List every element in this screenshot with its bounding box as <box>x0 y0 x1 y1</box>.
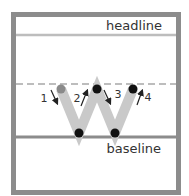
start-point-dot <box>57 85 66 94</box>
stroke-number-2: 2 <box>74 92 81 105</box>
stroke-number-1: 1 <box>41 92 48 105</box>
stroke-number-3: 3 <box>115 88 122 101</box>
stroke-number-4: 4 <box>145 91 152 104</box>
vertex-dot <box>93 85 102 94</box>
vertex-dot <box>129 85 138 94</box>
vertex-dot <box>75 129 84 138</box>
headline-label: headline <box>106 18 162 33</box>
vertex-dot <box>111 129 120 138</box>
letter-w-stroke-diagram: headline baseline 1 2 3 4 <box>0 0 189 196</box>
